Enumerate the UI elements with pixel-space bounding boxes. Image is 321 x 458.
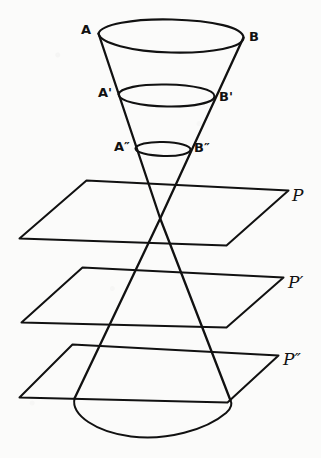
- lower-nappe-bottom-arc: [74, 399, 231, 438]
- cone-planes-diagram: [0, 0, 321, 458]
- label-point-a: A: [81, 23, 91, 36]
- plane-p-double-prime-outline: [20, 345, 279, 403]
- label-point-a-double-prime: A″: [114, 140, 130, 153]
- label-point-b-double-prime: B″: [194, 141, 210, 154]
- label-plane-p-double-prime: P″: [283, 351, 301, 368]
- label-point-a-prime: A': [98, 86, 112, 99]
- label-plane-p-prime: P′: [288, 274, 303, 291]
- figure-canvas: A B A' B' A″ B″ P P′ P″: [0, 0, 321, 458]
- cone-left-generator: [99, 34, 231, 401]
- cone-small-circle: [136, 142, 191, 156]
- label-plane-p: P: [292, 187, 303, 204]
- plane-p-prime-outline: [22, 268, 284, 328]
- plane-p-outline: [20, 181, 289, 246]
- label-point-b: B: [249, 30, 259, 43]
- cone-top-circle: [99, 19, 244, 52]
- cone-middle-circle: [119, 84, 215, 106]
- label-point-b-prime: B': [219, 90, 233, 103]
